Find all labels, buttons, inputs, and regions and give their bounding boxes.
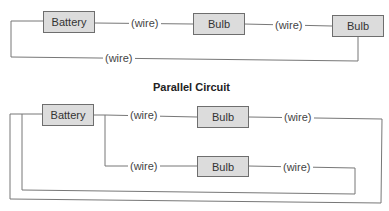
series-bulb-1: Bulb xyxy=(193,13,245,35)
parallel-bulb-bottom: Bulb xyxy=(197,156,249,177)
parallel-bulb-top-label: Bulb xyxy=(212,111,234,123)
parallel-wire-label-4: (wire) xyxy=(281,161,313,173)
parallel-wire-label-3: (wire) xyxy=(128,160,160,172)
series-bulb-1-label: Bulb xyxy=(208,18,230,30)
series-wire-label-2: (wire) xyxy=(273,19,305,31)
series-wire-label-1: (wire) xyxy=(129,17,161,29)
series-battery-label: Battery xyxy=(52,16,87,28)
parallel-wire-label-1: (wire) xyxy=(128,109,160,121)
parallel-bulb-top: Bulb xyxy=(197,106,249,128)
series-battery: Battery xyxy=(43,11,95,33)
series-bulb-2: Bulb xyxy=(332,15,384,37)
series-wire-label-3: (wire) xyxy=(103,52,135,64)
parallel-wire-label-2: (wire) xyxy=(282,111,314,123)
parallel-bulb-bottom-label: Bulb xyxy=(212,161,234,173)
series-bulb-2-label: Bulb xyxy=(347,20,369,32)
parallel-battery-label: Battery xyxy=(51,109,86,121)
parallel-battery: Battery xyxy=(42,104,94,126)
parallel-circuit-title: Parallel Circuit xyxy=(153,81,230,93)
